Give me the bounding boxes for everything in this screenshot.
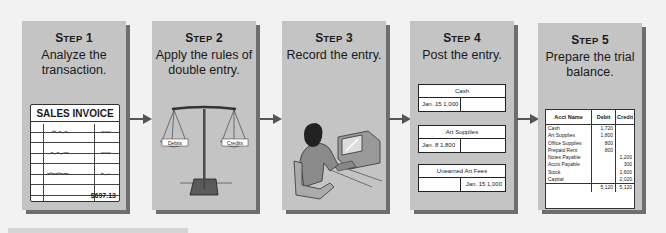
step-1-description: Analyze the transaction. bbox=[24, 48, 124, 78]
step-5-title: STEP 5 bbox=[538, 33, 642, 47]
step-5-description: Prepare the trial balance. bbox=[540, 50, 640, 80]
step-3-panel: STEP 3 Record the entry. bbox=[282, 21, 386, 210]
step-4-title: STEP 4 bbox=[410, 31, 514, 45]
t-account-unearned-art-fees: Unearned Art Fees Jan. 15 1,000 bbox=[418, 164, 506, 192]
step-2-title: STEP 2 bbox=[152, 31, 256, 45]
step-3-description: Record the entry. bbox=[284, 48, 384, 63]
invoice-total: $697.13 bbox=[91, 192, 116, 199]
person-at-computer-icon bbox=[290, 101, 386, 201]
step-5-panel: STEP 5 Prepare the trial balance. Acct N… bbox=[538, 23, 642, 210]
invoice-title: SALES INVOICE bbox=[31, 105, 119, 122]
step-3-title: STEP 3 bbox=[282, 31, 386, 45]
balance-scale-icon: Debits Credits bbox=[152, 101, 256, 201]
step-2-description: Apply the rules of double entry. bbox=[154, 48, 254, 78]
sales-invoice-icon: SALES INVOICE $697.13 bbox=[30, 104, 120, 202]
arrow-step1-to-step2 bbox=[130, 114, 152, 124]
step-4-description: Post the entry. bbox=[412, 48, 512, 63]
step-2-panel: STEP 2 Apply the rules of double entry. … bbox=[152, 21, 256, 210]
bottom-strip bbox=[8, 228, 188, 233]
t-account-cash: Cash Jan. 15 1,000 bbox=[418, 84, 506, 112]
arrow-step3-to-step4 bbox=[389, 114, 411, 124]
debits-label: Debits bbox=[168, 140, 183, 146]
step-1-panel: STEP 1 Analyze the transaction. SALES IN… bbox=[22, 21, 126, 210]
arrow-step4-to-step5 bbox=[517, 114, 539, 124]
step-1-title: STEP 1 bbox=[22, 31, 126, 45]
t-account-art-supplies: Art Supplies Jan. 8 1,800 bbox=[418, 125, 506, 153]
trial-balance-table: Acct Name Debit Credit Cash1,720 Art Sup… bbox=[545, 109, 635, 209]
credits-label: Credits bbox=[227, 140, 243, 146]
step-4-panel: STEP 4 Post the entry. Cash Jan. 15 1,00… bbox=[410, 21, 514, 210]
arrow-step2-to-step3 bbox=[260, 114, 282, 124]
